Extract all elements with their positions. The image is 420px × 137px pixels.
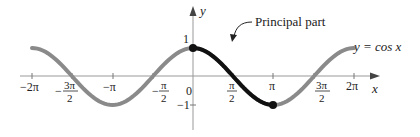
x-tick-label-negpi2: − π 2 [152, 79, 169, 104]
x-tick-label-neg3pi2: − 3π 2 [55, 79, 78, 104]
annotation-leader-line [234, 22, 252, 36]
svg-text:3π: 3π [316, 79, 328, 91]
y-tick-label-1: 1 [183, 32, 189, 46]
svg-text:3π: 3π [64, 79, 76, 91]
annotation-principal-part: Principal part [255, 14, 326, 29]
principal-end-point [269, 101, 277, 109]
svg-text:2: 2 [229, 92, 235, 104]
svg-text:−: − [55, 84, 62, 98]
x-tick-label-neg2pi: −2π [20, 80, 39, 94]
x-axis-arrow-icon [370, 73, 380, 80]
x-tick-label-0: 0 [186, 84, 192, 98]
svg-text:π: π [161, 79, 167, 91]
function-label: y = cos x [352, 39, 402, 54]
x-tick-label-negpi: −π [103, 80, 116, 94]
y-axis-label: y [198, 3, 206, 18]
principal-start-point [189, 44, 197, 52]
x-tick-label-2pi: 2π [346, 79, 358, 93]
svg-text:−: − [152, 84, 159, 98]
y-tick-label-neg1: −1 [177, 98, 190, 112]
svg-text:π: π [229, 79, 235, 91]
x-tick-label-pi2: π 2 [227, 79, 237, 104]
x-axis-label: x [371, 81, 378, 96]
cosine-graph: Principal part y = cos x y x 1 −1 −2π − … [0, 0, 420, 137]
x-tick-label-pi: π [269, 79, 275, 93]
svg-text:2: 2 [161, 92, 167, 104]
y-axis-arrow-icon [190, 6, 197, 16]
x-tick-label-3pi2: 3π 2 [315, 79, 330, 104]
annotation-arrow-icon [230, 34, 237, 42]
svg-text:2: 2 [319, 92, 325, 104]
svg-text:2: 2 [67, 92, 73, 104]
